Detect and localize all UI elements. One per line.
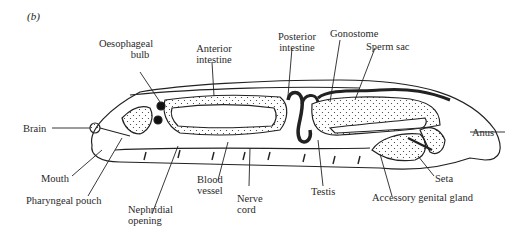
label-pharyngeal-pouch: Pharyngeal pouch: [26, 195, 102, 206]
label-text: Anterior: [186, 43, 242, 54]
label-text: opening: [128, 215, 173, 226]
label-text: cord: [237, 204, 263, 215]
label-nerve-cord: Nerve cord: [237, 193, 263, 215]
label-text: Oesophageal: [86, 38, 166, 49]
label-sperm-sac: Sperm sac: [366, 41, 409, 52]
worm-anatomy-diagram: (b): [0, 0, 519, 232]
label-text: intestine: [272, 42, 322, 53]
label-blood-vessel: Blood vessel: [197, 174, 223, 196]
label-text: Nerve: [237, 193, 263, 204]
label-accessory-genital-gland: Accessory genital gland: [372, 192, 473, 203]
label-anus: Anus: [472, 127, 494, 138]
label-text: Blood: [197, 174, 223, 185]
label-text: intestine: [186, 54, 242, 65]
oesophageal-bulb: [157, 102, 165, 110]
brain-shape: [90, 123, 100, 133]
label-text: Nephridial: [128, 204, 173, 215]
label-text: vessel: [197, 185, 223, 196]
posterior-intestine: [288, 93, 310, 142]
label-text: bulb: [86, 49, 166, 60]
label-nephridial-opening: Nephridial opening: [128, 204, 173, 226]
label-posterior-intestine: Posterior intestine: [272, 31, 322, 53]
label-oesophageal-bulb: Oesophageal bulb: [86, 38, 166, 60]
label-mouth: Mouth: [41, 173, 69, 184]
label-testis: Testis: [311, 186, 335, 197]
label-seta: Seta: [435, 173, 453, 184]
label-text: Posterior: [272, 31, 322, 42]
label-gonostome: Gonostome: [330, 28, 378, 39]
label-brain: Brain: [23, 123, 46, 134]
label-anterior-intestine: Anterior intestine: [186, 43, 242, 65]
accessory-genital-gland: [372, 134, 425, 161]
